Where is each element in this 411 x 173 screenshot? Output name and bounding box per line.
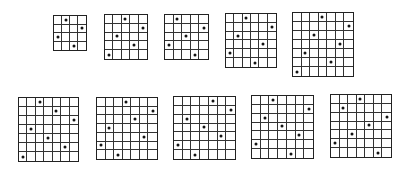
grid-cell [106,142,115,151]
grid-cell [97,150,106,159]
grid-cell [310,31,319,40]
grid-cell [19,125,27,134]
grid-cell [268,32,276,41]
grid-cell [365,113,374,122]
queen-dot-icon [338,43,341,46]
grid-cell [365,130,374,139]
grid-cell [331,113,340,122]
grid-cell [348,130,357,139]
grid-cell [174,33,183,42]
grid-cell [165,33,174,42]
grid-cell [226,49,234,58]
grid-cell [357,122,366,131]
grid-cell [70,143,78,152]
grid-cell [278,140,287,149]
grid-cell [304,131,313,140]
grid-cell [140,98,149,107]
queen-dot-icon [228,52,231,55]
grid-cell [243,49,251,58]
grid-cell [218,150,227,159]
grid-cell [54,33,62,42]
grid-cell [191,150,200,159]
grid-cell [252,140,261,149]
grid-cell [131,98,140,107]
grid-cell [106,107,115,116]
queen-dot-icon [330,61,333,64]
queen-dot-icon [194,153,197,156]
grid-cell [218,106,227,115]
grid-cell [148,98,157,107]
grid-cell [27,152,35,161]
grid-cell [139,41,147,50]
grid-cell [296,131,305,140]
grid-cell [113,41,121,50]
grid-cell [344,49,353,58]
grid-cell [61,107,69,116]
grid-cell [70,25,78,34]
grid-cell [287,123,296,132]
grid-cell [382,95,391,104]
grid-cell [278,149,287,158]
grid-cell [140,133,149,142]
grid-cell [287,96,296,105]
queen-dot-icon [132,44,135,47]
grid-cell [365,95,374,104]
grid-cell [251,32,259,41]
queen-dot-icon [202,126,205,129]
grid-cell [123,133,132,142]
grid-cell [252,149,261,158]
grid-cell [261,96,270,105]
grid-cell [336,40,345,49]
grid-cell [61,152,69,161]
grid-cell [340,113,349,122]
grid-cell [19,107,27,116]
grid-cell [251,58,259,67]
grid-cell [140,115,149,124]
queen-dot-icon [272,98,275,101]
grid-cell [209,132,218,141]
queen-dot-icon [184,35,187,38]
grid-cell [113,15,121,24]
board-grid-9 [251,95,314,159]
grid-cell [61,116,69,125]
grid-cell [130,41,138,50]
grid-cell [209,106,218,115]
grid-cell [148,115,157,124]
grid-cell [44,125,52,134]
grid-cell [105,41,113,50]
grid-cell [226,40,234,49]
queen-dot-icon [134,118,137,121]
grid-cell [336,58,345,67]
grid-cell [319,31,328,40]
grid-cell [365,122,374,131]
grid-cell [344,58,353,67]
grid-cell [114,150,123,159]
grid-cell [296,105,305,114]
queen-dot-icon [270,25,273,28]
grid-cell [234,23,242,32]
grid-cell [331,95,340,104]
grid-cell [310,22,319,31]
grid-cell [182,41,191,50]
grid-cell [234,14,242,23]
grid-cell [27,143,35,152]
grid-cell [226,58,234,67]
grid-cell [218,97,227,106]
grid-cell [53,116,61,125]
grid-cell [293,67,302,76]
grid-cell [234,49,242,58]
grid-cell [382,122,391,131]
grid-cell [209,141,218,150]
grid-cell [296,96,305,105]
queen-dot-icon [38,101,41,104]
grid-cell [310,40,319,49]
grid-cell [319,40,328,49]
grid-cell [287,140,296,149]
queen-dot-icon [176,17,179,20]
grid-cell [348,148,357,157]
grid-cell [123,142,132,151]
queen-dot-icon [125,100,128,103]
grid-cell [344,13,353,22]
queen-dot-icon [385,115,388,118]
queen-dot-icon [312,34,315,37]
